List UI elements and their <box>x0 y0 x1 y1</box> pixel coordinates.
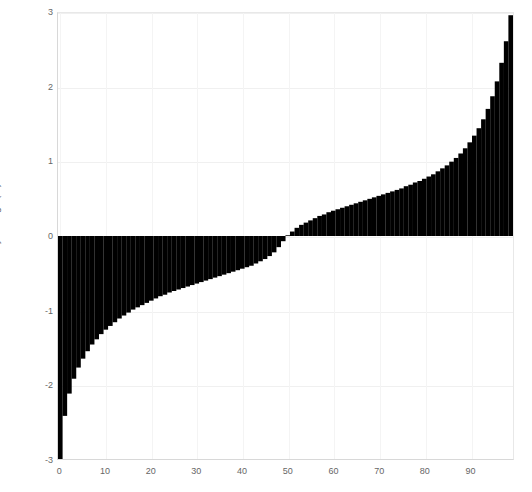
bar <box>399 188 404 236</box>
x-axis-tick-label: 60 <box>313 466 353 476</box>
bar <box>417 181 422 236</box>
bar <box>308 220 313 236</box>
bar <box>185 236 190 287</box>
bar <box>85 236 90 351</box>
bar <box>290 232 295 236</box>
x-axis-tick-label: 10 <box>85 466 125 476</box>
bar <box>272 236 277 252</box>
bar <box>317 216 322 236</box>
bar <box>245 236 250 267</box>
x-axis-tick-labels: 0102030405060708090 <box>57 466 514 482</box>
bar <box>199 236 204 282</box>
bar <box>340 208 345 236</box>
bar <box>208 236 213 279</box>
bar <box>467 142 472 236</box>
bar <box>213 236 218 278</box>
bar-series <box>58 13 513 459</box>
bar <box>231 236 236 272</box>
bar <box>445 165 450 236</box>
bar <box>113 236 118 322</box>
bar <box>254 236 259 264</box>
bar <box>349 205 354 236</box>
bar <box>304 223 309 236</box>
bar <box>354 203 359 236</box>
x-axis-tick-label: 30 <box>176 466 216 476</box>
bar <box>122 236 127 316</box>
bar <box>495 81 500 236</box>
bar <box>440 168 445 236</box>
y-axis-tick-label: 2 <box>13 82 53 92</box>
bar <box>463 148 468 236</box>
bar <box>172 236 177 291</box>
bar <box>140 236 145 305</box>
bar <box>154 236 159 298</box>
x-axis-tick-label: 80 <box>405 466 445 476</box>
bar <box>458 153 463 236</box>
y-axis-tick-label: 3 <box>13 7 53 17</box>
bar <box>408 185 413 236</box>
y-axis-tick-label: 1 <box>13 156 53 166</box>
bar <box>358 202 363 236</box>
bar <box>235 236 240 270</box>
bar <box>94 236 99 339</box>
bar <box>176 236 181 290</box>
x-axis-tick-label: 0 <box>39 466 79 476</box>
bar <box>449 162 454 236</box>
x-axis-tick-label: 20 <box>131 466 171 476</box>
bar <box>204 236 209 281</box>
bar <box>472 136 477 236</box>
bar <box>326 212 331 236</box>
bar <box>194 236 199 284</box>
bar <box>163 236 168 295</box>
x-axis-tick-label: 50 <box>268 466 308 476</box>
chart-figure: FTSE 100 Daily Change (%) 3210-1-2-3 010… <box>0 0 532 492</box>
bar <box>313 218 318 236</box>
bar <box>144 236 149 303</box>
bar <box>454 158 459 236</box>
y-axis-tick-label: 0 <box>13 231 53 241</box>
bar <box>386 193 391 236</box>
bar <box>135 236 140 307</box>
y-axis-title-text: FTSE 100 Daily Change (%) <box>0 184 1 309</box>
bar <box>276 236 281 247</box>
bar <box>67 236 72 394</box>
bar <box>490 96 495 236</box>
bar <box>376 196 381 236</box>
bar <box>90 236 95 345</box>
bar <box>76 236 81 368</box>
bar <box>381 194 386 236</box>
bar <box>190 236 195 285</box>
bar <box>336 209 341 236</box>
bar <box>149 236 154 301</box>
bar <box>295 228 300 236</box>
bar <box>222 236 227 275</box>
bar <box>436 171 441 236</box>
bar <box>158 236 163 296</box>
bar <box>99 236 104 334</box>
bar <box>117 236 122 319</box>
bar <box>281 236 286 241</box>
bar <box>331 211 336 236</box>
bar <box>413 182 418 236</box>
bar <box>404 186 409 236</box>
y-axis-tick-labels: 3210-1-2-3 <box>8 12 53 460</box>
bar <box>390 191 395 236</box>
bar <box>226 236 231 273</box>
bar <box>258 236 263 261</box>
bar <box>395 190 400 236</box>
bar <box>72 236 77 379</box>
bar <box>504 41 509 236</box>
bar <box>299 225 304 236</box>
bar <box>422 179 427 236</box>
bar <box>345 206 350 236</box>
bar <box>481 119 486 236</box>
y-axis-tick-label: -1 <box>13 306 53 316</box>
bar <box>431 174 436 236</box>
bar <box>363 200 368 236</box>
y-axis-tick-label: -3 <box>13 455 53 465</box>
bar <box>103 236 108 330</box>
bar <box>81 236 86 359</box>
bar <box>322 214 327 236</box>
bar <box>240 236 245 269</box>
bar <box>477 128 482 236</box>
